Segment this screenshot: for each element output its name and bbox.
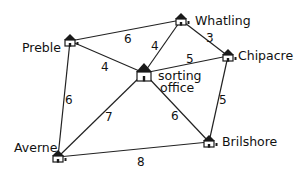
node-label-chipacre: Chipacre xyxy=(238,48,293,63)
edge-weight-label: 5 xyxy=(219,93,227,107)
node-label-brilshore: Brilshore xyxy=(222,134,278,149)
edge-weight-label: 7 xyxy=(105,110,113,124)
node-whatling: Whatling xyxy=(175,13,251,28)
route-network-diagram: 6443567658 PrebleWhatlingChipacresorting… xyxy=(0,0,307,176)
edge-averne-brilshore xyxy=(58,142,209,157)
edges-layer xyxy=(58,20,228,157)
house-icon xyxy=(175,13,190,26)
node-averne: Averne xyxy=(14,140,67,163)
house-icon xyxy=(222,49,237,62)
node-sorting: sortingoffice xyxy=(136,63,202,95)
edge-weight-label: 8 xyxy=(137,155,145,169)
edge-whatling-sorting xyxy=(144,20,181,73)
node-label-sorting-line2: office xyxy=(160,80,195,95)
edge-weight-label: 6 xyxy=(65,93,73,107)
edge-weight-label: 5 xyxy=(186,52,194,66)
edge-weight-label: 4 xyxy=(101,60,109,74)
house-icon xyxy=(203,135,218,148)
edge-weight-label: 6 xyxy=(124,32,132,46)
node-preble: Preble xyxy=(22,34,79,55)
node-label-preble: Preble xyxy=(22,40,61,55)
node-chipacre: Chipacre xyxy=(222,48,293,63)
edge-weight-label: 3 xyxy=(206,31,214,45)
node-label-averne: Averne xyxy=(14,140,58,155)
node-label-whatling: Whatling xyxy=(195,13,251,28)
edge-weight-label: 4 xyxy=(151,39,159,53)
node-brilshore: Brilshore xyxy=(203,134,278,149)
edge-weight-label: 6 xyxy=(171,109,179,123)
edge-sorting-averne xyxy=(58,73,144,157)
nodes-layer: PrebleWhatlingChipacresortingofficeAvern… xyxy=(14,13,293,163)
